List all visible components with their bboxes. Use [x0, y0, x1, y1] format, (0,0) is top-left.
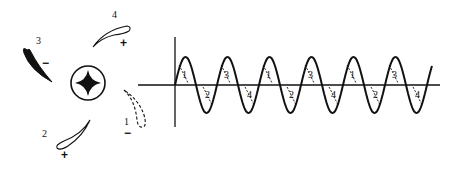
- cross-hub-icon: [75, 70, 101, 96]
- waveform: 123412341234: [138, 37, 440, 127]
- blade-2-label: 2: [42, 128, 47, 139]
- blade-1-polarity-sign: −: [124, 126, 131, 140]
- tick-label: 3: [392, 69, 397, 80]
- tick-label: 1: [182, 69, 187, 80]
- tick-label: 2: [205, 89, 210, 100]
- tick-label: 4: [247, 89, 252, 100]
- rotor: 1−2+3−4+: [23, 9, 145, 162]
- blade-3-polarity-sign: −: [42, 56, 49, 70]
- tick-label: 4: [415, 89, 420, 100]
- tick-label: 3: [308, 69, 313, 80]
- tick-label: 2: [373, 89, 378, 100]
- tick-label: 1: [350, 69, 355, 80]
- blade-2-polarity-sign: +: [61, 148, 68, 162]
- blade-3-label: 3: [36, 35, 41, 46]
- hub: [71, 66, 105, 100]
- blade-4-label: 4: [112, 9, 117, 20]
- tick-label: 4: [331, 89, 336, 100]
- tick-label: 3: [224, 69, 229, 80]
- blade-2: [57, 120, 90, 149]
- tick-label: 1: [266, 69, 271, 80]
- blade-4-polarity-sign: +: [120, 36, 127, 50]
- rotor-waveform-diagram: 1−2+3−4+ 123412341234: [0, 0, 459, 170]
- tick-label: 2: [289, 89, 294, 100]
